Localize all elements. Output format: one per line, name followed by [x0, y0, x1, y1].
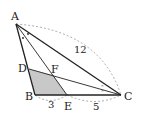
angle-mark-x-icon: × — [101, 88, 104, 93]
angle-mark-dot-icon — [22, 37, 24, 39]
measure-be: 3 — [48, 99, 54, 110]
label-d: D — [18, 62, 27, 75]
shaded-region-dbef — [29, 69, 67, 95]
label-c: C — [124, 90, 132, 103]
label-b: B — [25, 90, 33, 103]
label-f: F — [51, 63, 59, 76]
label-e: E — [64, 100, 72, 113]
angle-mark-dot-icon — [27, 33, 29, 35]
label-a: A — [10, 10, 20, 23]
measure-ac: 12 — [74, 44, 87, 55]
measure-ec: 5 — [93, 101, 99, 112]
triangle-diagram: × × A D F B E C 12 3 5 — [0, 0, 141, 117]
